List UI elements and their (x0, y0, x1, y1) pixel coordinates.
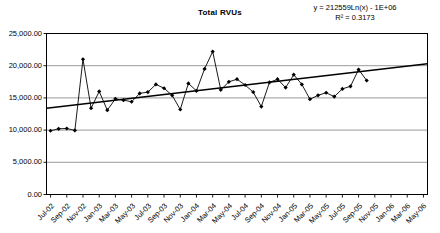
y-axis-tick-label: 5,000.00 (0, 157, 42, 166)
y-axis-tick-label: 20,000.00 (0, 61, 42, 70)
data-point-marker (178, 107, 182, 111)
data-point-marker (211, 49, 215, 53)
trendline (47, 64, 428, 108)
data-point-marker (259, 104, 263, 108)
y-axis-tick-label: 0.00 (0, 190, 42, 199)
y-axis-tick-label: 25,000.00 (0, 29, 42, 38)
data-point-marker (348, 84, 352, 88)
data-series-markers (48, 49, 368, 132)
data-point-marker (81, 57, 85, 61)
y-axis-tick-label: 10,000.00 (0, 125, 42, 134)
data-point-marker (316, 93, 320, 97)
y-axis-tick-label: 15,000.00 (0, 93, 42, 102)
data-point-marker (202, 67, 206, 71)
axis-lines (47, 34, 428, 195)
data-point-marker (97, 89, 101, 93)
data-point-marker (324, 91, 328, 95)
plot-area (0, 0, 440, 233)
data-point-marker (73, 128, 77, 132)
chart-container: Total RVUs y = 212559Ln(x) - 1E+06 R² = … (0, 0, 440, 233)
data-point-marker (48, 129, 52, 133)
plot-frame (47, 34, 428, 195)
data-point-marker (89, 106, 93, 110)
